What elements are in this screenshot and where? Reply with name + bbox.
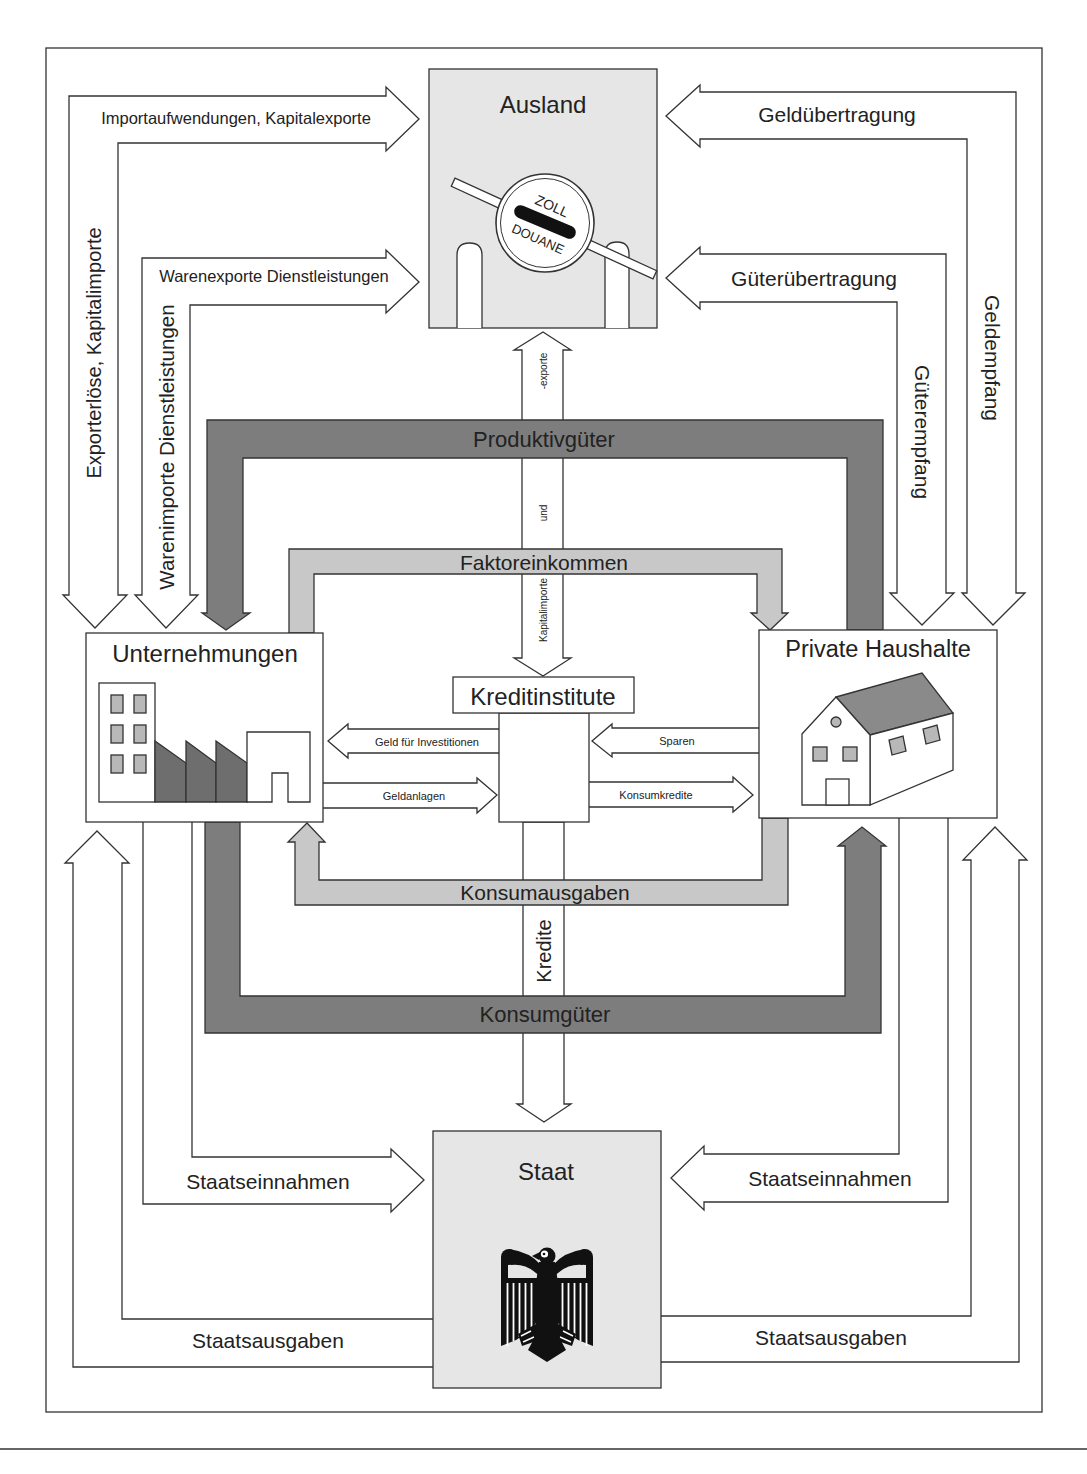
label-warenimporte: Warenimporte Dienstleistungen [155, 304, 178, 589]
sector-staat: Staat [433, 1131, 661, 1388]
label-konsumausgaben: Konsumausgaben [460, 881, 629, 904]
label-konsumkredite: Konsumkredite [619, 789, 692, 801]
kreditinstitute-body [499, 713, 589, 822]
label-kapital-exporte: -exporte [538, 352, 549, 389]
label-kapital-und: und [538, 505, 549, 522]
label-staatsausgaben-right: Staatsausgaben [755, 1326, 907, 1349]
label-staatseinnahmen-left: Staatseinnahmen [186, 1170, 349, 1193]
private-haushalte-title: Private Haushalte [785, 636, 971, 662]
label-warenexporte: Warenexporte Dienstleistungen [159, 267, 389, 285]
label-staatseinnahmen-right: Staatseinnahmen [748, 1167, 911, 1190]
eagle-right-wing [553, 1249, 593, 1346]
label-faktoreinkommen: Faktoreinkommen [460, 551, 628, 574]
label-produktivgueter: Produktivgüter [473, 427, 615, 452]
label-staatsausgaben-left: Staatsausgaben [192, 1329, 344, 1352]
label-gelduebertragung: Geldübertragung [758, 103, 916, 126]
label-konsumgueter: Konsumgüter [480, 1002, 611, 1027]
label-exporterloese: Exporterlöse, Kapitalimporte [83, 227, 105, 478]
label-geld-fuer-investitionen: Geld für Investitionen [375, 736, 479, 748]
kreditinstitute-title: Kreditinstitute [470, 683, 615, 710]
label-geldanlagen: Geldanlagen [383, 790, 445, 802]
economic-circular-flow-diagram: ZOLL DOUANE Ausland Unternehmungen Priva… [0, 0, 1087, 1474]
label-gueteruebertragung: Güterübertragung [731, 267, 897, 290]
label-sparen: Sparen [659, 735, 694, 747]
label-importaufwendungen: Importaufwendungen, Kapitalexporte [101, 109, 371, 127]
label-gueterempfang: Güterempfang [911, 365, 934, 499]
sector-unternehmungen: Unternehmungen [86, 633, 323, 822]
sector-private-haushalte: Private Haushalte [759, 630, 997, 818]
sector-ausland: ZOLL DOUANE Ausland [429, 69, 657, 328]
staat-title: Staat [518, 1158, 574, 1185]
ausland-title: Ausland [500, 91, 587, 118]
label-kapitalimporte: Kapitalimporte [538, 578, 549, 642]
label-geldempfang: Geldempfang [981, 295, 1004, 421]
label-kredite: Kredite [533, 919, 555, 982]
eagle-left-wing [501, 1249, 541, 1346]
unternehmungen-title: Unternehmungen [112, 640, 297, 667]
